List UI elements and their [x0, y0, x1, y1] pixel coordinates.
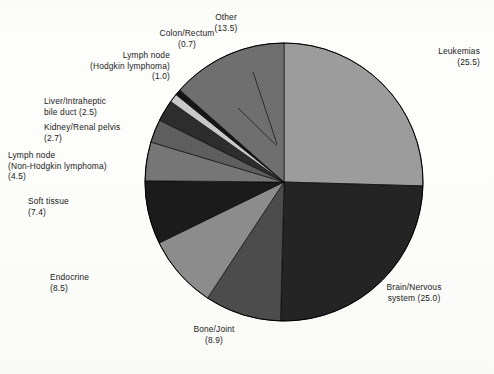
label-liver-intraheptic-bile-duct: Liver/Intraheptic bile duct (2.5): [44, 96, 176, 117]
label-leukemias: Leukemias (25.5): [366, 46, 480, 67]
pie-chart-figure: Lymph node (Hodgkin lymphoma) (1.0) Colo…: [0, 0, 494, 374]
label-soft-tissue: Soft tissue (7.4): [28, 196, 146, 217]
label-lymph-node-non-hodgkin: Lymph node (Non-Hodgkin lymphoma) (4.5): [8, 150, 176, 182]
label-brain-nervous-system: Brain/Nervous system (25.0): [358, 282, 470, 303]
label-kidney-renal-pelvis: Kidney/Renal pelvis (2.7): [44, 122, 176, 143]
pie-slices-group: [145, 43, 423, 321]
label-bone-joint: Bone/Joint (8.9): [158, 324, 270, 345]
label-other: Other (13.5): [186, 12, 266, 33]
label-endocrine: Endocrine (8.5): [50, 272, 154, 293]
label-lymph-node-hodgkin: Lymph node (Hodgkin lymphoma) (1.0): [8, 50, 170, 82]
